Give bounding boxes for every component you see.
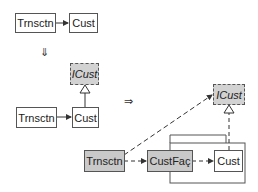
custfacade-class-step3: CustFaç bbox=[147, 150, 193, 172]
down-arrow: ⇓ bbox=[40, 46, 49, 59]
cust-class-step1: Cust bbox=[69, 13, 98, 33]
trnsctn-class-step1: Trnsctn bbox=[15, 13, 56, 33]
cust-class-step3: Cust bbox=[214, 150, 243, 172]
cust-class-step2: Cust bbox=[72, 107, 99, 128]
right-arrow: ⇒ bbox=[124, 95, 133, 108]
trnsctn-class-step2: Trnsctn bbox=[16, 107, 57, 128]
icust-interface-step3: ICust bbox=[213, 84, 245, 105]
trnsctn-class-step3: Trnsctn bbox=[84, 150, 125, 172]
icust-interface-step2: ICust bbox=[70, 63, 99, 85]
refactoring-diagram: Trnsctn Cust ⇓ ICust Trnsctn Cust ⇒ ICus… bbox=[0, 0, 258, 192]
